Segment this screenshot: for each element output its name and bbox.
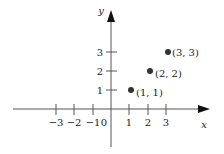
point-label: (3, 3) bbox=[172, 47, 199, 58]
point-label: (1, 1) bbox=[136, 87, 163, 98]
data-point bbox=[165, 49, 171, 55]
x-tick-label: 2 bbox=[145, 117, 151, 128]
x-tick-label: −2 bbox=[67, 117, 82, 128]
coordinate-plane: −3 −2 −1 0 1 2 3 3 2 1 x y (1, 1) (2, 2)… bbox=[0, 0, 224, 154]
data-point bbox=[147, 68, 153, 74]
point-label: (2, 2) bbox=[155, 68, 182, 79]
origin-label: 0 bbox=[101, 117, 107, 128]
x-axis-label: x bbox=[201, 119, 207, 130]
y-axis-label: y bbox=[97, 5, 104, 16]
x-tick-label: −3 bbox=[49, 117, 64, 128]
y-axis-arrow-icon bbox=[107, 10, 115, 22]
x-axis-arrow-icon bbox=[198, 105, 210, 113]
x-tick-label: −1 bbox=[86, 117, 101, 128]
y-tick-label: 3 bbox=[97, 47, 103, 58]
x-tick-label: 1 bbox=[126, 117, 132, 128]
y-tick-label: 1 bbox=[97, 85, 103, 96]
y-tick-label: 2 bbox=[97, 66, 103, 77]
x-tick-label: 3 bbox=[163, 117, 169, 128]
data-point bbox=[128, 87, 134, 93]
